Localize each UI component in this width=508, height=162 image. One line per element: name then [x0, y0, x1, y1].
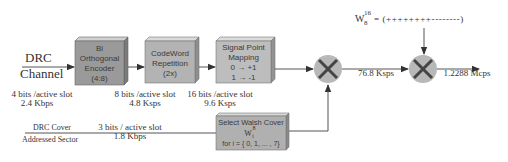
- input-label-channel: Channel: [20, 66, 64, 81]
- walsh-8-sup: 8: [253, 125, 256, 131]
- rate-label: 2.4 Kbps: [21, 98, 54, 108]
- codeword-repetition-block: CodeWord Repetition (2x): [145, 37, 199, 83]
- block-label: Repetition: [152, 59, 188, 68]
- block-label: Signal Point: [222, 43, 265, 52]
- drc-channel-diagram: DRC Channel Bi Orthogonal Encoder (4:8) …: [0, 0, 508, 162]
- block-label: Bi: [96, 44, 103, 53]
- cover-rate: 1.8 Kbps: [114, 131, 147, 141]
- walsh-16-sub: 8: [364, 19, 368, 27]
- multiplier-1: [314, 55, 342, 83]
- walsh-16-label: W 8 16 = (++++++++--------): [355, 9, 464, 27]
- block-label: Orthogonal: [80, 54, 120, 63]
- block-label: Encoder: [85, 64, 115, 73]
- walsh-16-sup: 16: [364, 9, 372, 17]
- block-label: 0 → +1: [230, 63, 257, 72]
- walsh-16-sequence: = (++++++++--------): [374, 14, 464, 24]
- block-label: Mapping: [228, 53, 259, 62]
- input-label-drc: DRC: [25, 50, 52, 65]
- rate-label: 9.6 Ksps: [204, 98, 236, 108]
- block-label: Select Walsh Cover: [218, 118, 284, 127]
- signal-point-mapping-block: Signal Point Mapping 0 → +1 1 → -1: [216, 37, 275, 83]
- block-label: for i = { 0, 1, ... , 7}: [222, 140, 280, 148]
- select-walsh-cover-block: Select Walsh Cover W i 8 for i = { 0, 1,…: [216, 113, 289, 150]
- block-label: (4:8): [91, 74, 108, 83]
- multiplier-2: [409, 55, 437, 83]
- bi-orthogonal-encoder-block: Bi Orthogonal Encoder (4:8): [75, 37, 128, 85]
- walsh-8-base: W: [244, 129, 252, 138]
- block-label: 1 → -1: [231, 73, 256, 82]
- rate-label: 1.2288 Mcps: [444, 68, 491, 78]
- block-label: (2x): [163, 69, 177, 78]
- rate-label: 76.8 Ksps: [358, 68, 395, 78]
- block-label: CodeWord: [151, 49, 189, 58]
- walsh-cover-arrow: [289, 85, 328, 131]
- cover-label: Addressed Sector: [22, 135, 79, 144]
- cover-label: DRC Cover: [33, 123, 71, 132]
- rate-label: 4.8 Ksps: [129, 98, 161, 108]
